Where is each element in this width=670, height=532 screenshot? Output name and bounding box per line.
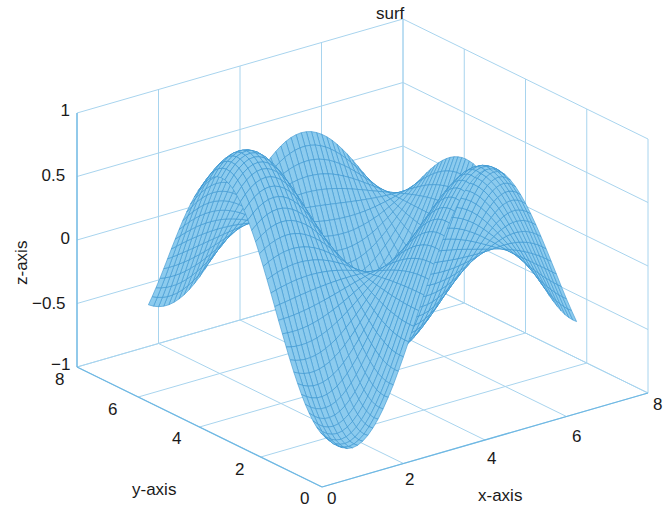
x-tick-label: 8 — [653, 395, 662, 415]
surface-plot — [0, 0, 670, 532]
z-tick-label: 0 — [61, 229, 70, 249]
surface-figure: surf z-axis y-axis x-axis −1−0.500.51024… — [0, 0, 670, 532]
y-tick-label: 6 — [108, 400, 117, 420]
chart-title: surf — [376, 4, 404, 24]
x-axis-label: x-axis — [478, 486, 522, 506]
y-axis-label: y-axis — [132, 480, 176, 500]
y-tick-label: 4 — [172, 429, 181, 449]
y-tick-label: 2 — [235, 460, 244, 480]
y-tick-label: 8 — [55, 370, 64, 390]
x-tick-label: 6 — [572, 427, 581, 447]
x-tick-label: 2 — [405, 470, 414, 490]
surface-mesh — [148, 132, 576, 449]
z-tick-label: −0.5 — [32, 294, 66, 314]
x-tick-label: 0 — [327, 489, 336, 509]
z-tick-label: 0.5 — [42, 166, 66, 186]
y-axis-line — [77, 367, 322, 487]
y-tick-label: 0 — [300, 489, 309, 509]
z-tick-label: 1 — [61, 101, 70, 121]
z-axis-label: z-axis — [12, 241, 32, 285]
x-tick-label: 4 — [487, 449, 496, 469]
